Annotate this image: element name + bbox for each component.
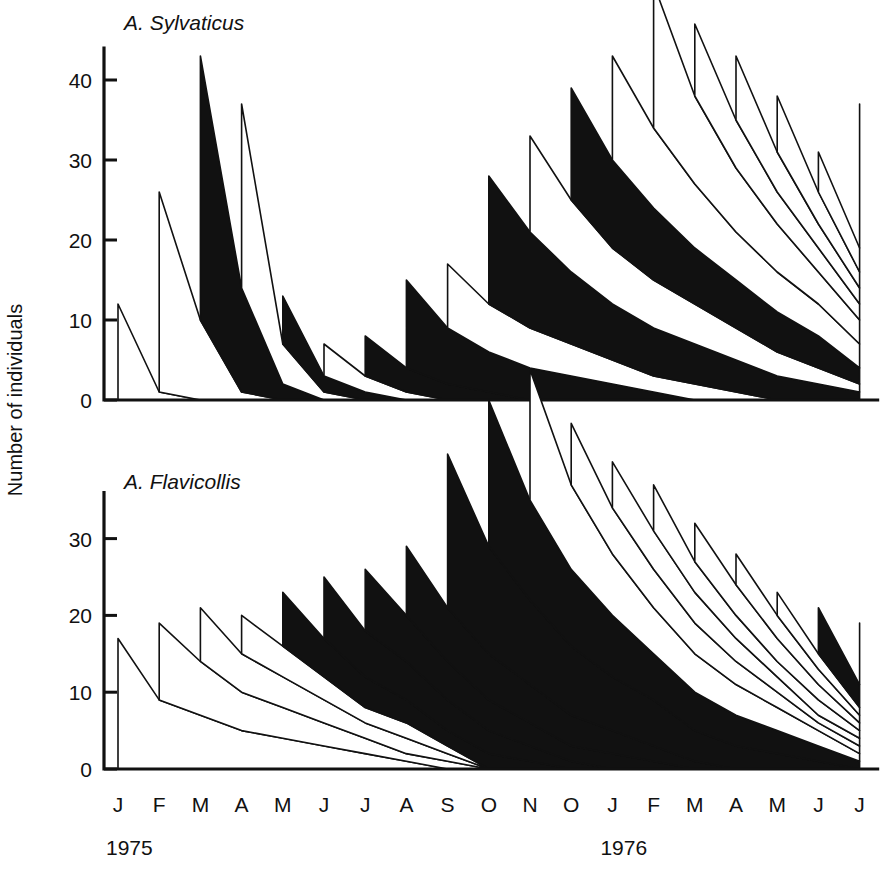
panel-title-flavicollis: A. Flavicollis <box>122 470 241 493</box>
x-month-label: J <box>607 793 618 816</box>
chart-canvas: Number of individuals A. Sylvaticus 0102… <box>0 0 895 873</box>
x-month-label: J <box>360 793 371 816</box>
x-axis-month-labels: JFMAMJJASONOJFMAMJJ <box>113 793 865 816</box>
x-year-label: 1975 <box>106 836 153 859</box>
x-month-label: O <box>481 793 497 816</box>
x-month-label: J <box>319 793 330 816</box>
x-month-label: M <box>192 793 210 816</box>
figure-root: Number of individuals A. Sylvaticus 0102… <box>0 0 895 873</box>
x-month-label: J <box>854 793 865 816</box>
y-tick-label: 20 <box>69 229 92 252</box>
panel-title-sylvaticus: A. Sylvaticus <box>122 11 245 34</box>
cohort-bands-flavicollis <box>118 370 860 769</box>
y-tick-label: 30 <box>69 528 92 551</box>
y-axis-label: Number of individuals <box>4 304 26 496</box>
x-month-label: N <box>522 793 537 816</box>
y-tick-label: 10 <box>69 681 92 704</box>
x-year-label: 1976 <box>600 836 647 859</box>
x-month-label: F <box>647 793 660 816</box>
y-tick-label: 20 <box>69 604 92 627</box>
y-tick-label: 10 <box>69 309 92 332</box>
x-month-label: F <box>153 793 166 816</box>
x-month-label: A <box>399 793 413 816</box>
cohort-bands-sylvaticus <box>118 0 860 400</box>
y-tick-label: 40 <box>69 69 92 92</box>
y-tick-label: 0 <box>80 389 92 412</box>
x-month-label: A <box>729 793 743 816</box>
panel-flavicollis: A. Flavicollis 0102030 <box>69 370 878 781</box>
x-month-label: M <box>274 793 292 816</box>
x-month-label: A <box>235 793 249 816</box>
x-month-label: S <box>441 793 455 816</box>
y-tick-label: 0 <box>80 758 92 781</box>
x-month-label: J <box>113 793 124 816</box>
x-month-label: M <box>768 793 786 816</box>
x-month-label: O <box>563 793 579 816</box>
x-axis-year-labels: 19751976 <box>106 836 647 859</box>
panel-sylvaticus: A. Sylvaticus 010203040 <box>69 0 878 412</box>
x-month-label: M <box>686 793 704 816</box>
x-month-label: J <box>813 793 824 816</box>
y-tick-label: 30 <box>69 149 92 172</box>
